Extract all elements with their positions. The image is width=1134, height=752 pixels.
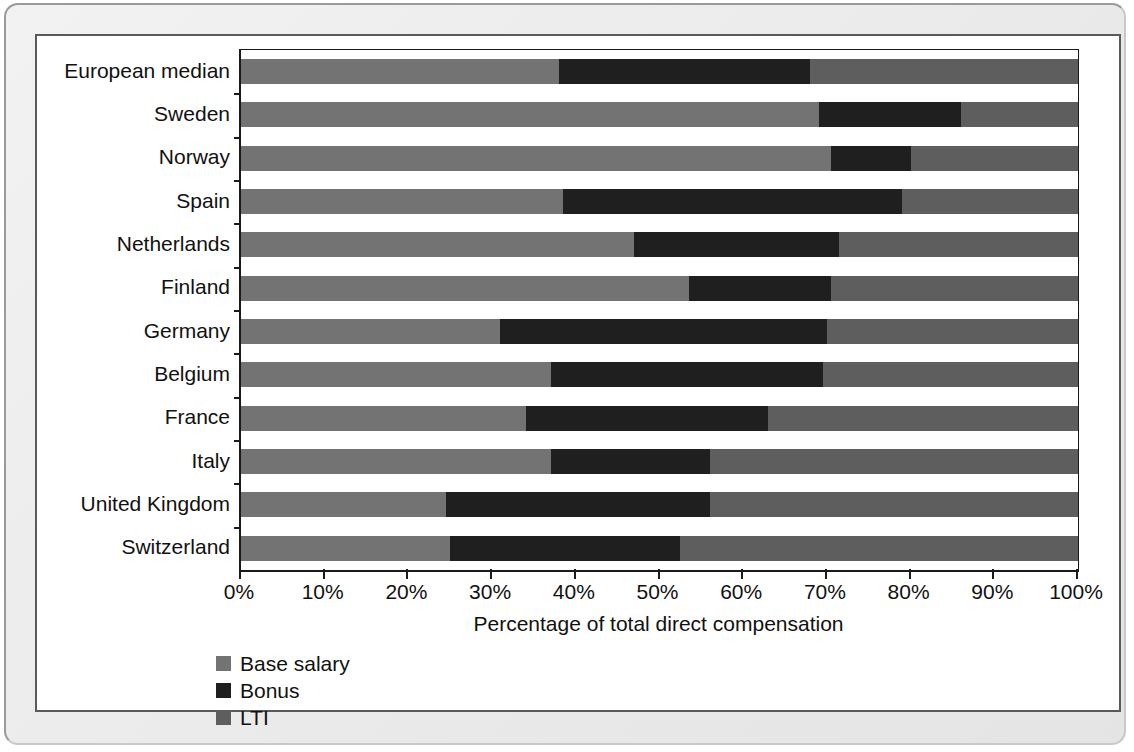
category-tick [234,267,241,269]
category-label: Germany [144,320,230,341]
bar-segment-base-salary [241,319,500,344]
bar-segment-lti [768,406,1078,431]
x-axis-tick-label: 60% [720,581,762,602]
category-tick [234,223,241,225]
bar-row [241,137,1078,180]
category-label: Belgium [154,363,230,384]
x-axis-tick-label: 30% [469,581,511,602]
bar-row [241,397,1078,440]
bar-segment-base-salary [241,536,450,561]
bar-segment-base-salary [241,232,634,257]
category-label: Switzerland [121,536,230,557]
bar-segment-base-salary [241,449,551,474]
stacked-bar [241,406,1078,431]
stacked-bar [241,492,1078,517]
category-tick [234,310,241,312]
bar-segment-bonus [559,59,810,84]
bar-row [241,483,1078,526]
x-axis-title: Percentage of total direct compensation [239,612,1078,636]
stacked-bar [241,232,1078,257]
category-tick [234,353,241,355]
legend-swatch-icon [216,710,231,725]
category-tick [234,483,241,485]
bar-row [241,440,1078,483]
bar-segment-lti [902,189,1078,214]
bar-segment-bonus [819,102,961,127]
x-axis-tick [1076,569,1078,579]
bar-row [241,527,1078,570]
bar-segment-lti [810,59,1078,84]
bar-row [241,180,1078,223]
category-tick [234,527,241,529]
legend-item: LTI [216,704,616,731]
bar-segment-base-salary [241,189,563,214]
bar-segment-bonus [634,232,839,257]
bar-segment-base-salary [241,276,689,301]
bar-segment-bonus [551,362,823,387]
x-axis-tick [909,569,911,579]
x-axis-tick [490,569,492,579]
bar-segment-lti [710,449,1078,474]
bar-segment-bonus [526,406,769,431]
x-axis-tick-label: 90% [971,581,1013,602]
bar-segment-bonus [689,276,831,301]
legend-item: Bonus [216,677,616,704]
category-label: United Kingdom [81,493,230,514]
category-label: Norway [159,146,230,167]
legend-item: Base salary [216,650,616,677]
legend-label: Base salary [240,653,350,674]
x-axis-tick-label: 80% [888,581,930,602]
bar-segment-bonus [450,536,680,561]
bar-segment-base-salary [241,102,819,127]
bar-segment-bonus [831,146,911,171]
chart-legend: Base salaryBonusLTI [216,650,616,731]
figure-outer-frame: European medianSwedenNorwaySpainNetherla… [4,3,1126,745]
stacked-bar [241,276,1078,301]
x-axis-tick [323,569,325,579]
category-label: Italy [191,450,230,471]
category-tick [234,180,241,182]
legend-swatch-icon [216,656,231,671]
bar-row [241,310,1078,353]
x-axis-tick-label: 0% [224,581,254,602]
x-axis-tick-label: 40% [553,581,595,602]
bar-segment-base-salary [241,406,526,431]
bar-segment-base-salary [241,492,446,517]
stacked-bar [241,189,1078,214]
bar-row [241,93,1078,136]
x-axis-tick-labels: 0%10%20%30%40%50%60%70%80%90%100% [239,581,1078,609]
stacked-bar [241,449,1078,474]
legend-swatch-icon [216,683,231,698]
x-axis-tick-label: 70% [804,581,846,602]
stacked-bar [241,362,1078,387]
category-tick [234,93,241,95]
category-tick [234,397,241,399]
stacked-bar [241,102,1078,127]
stacked-bar [241,59,1078,84]
x-axis-tick-label: 50% [636,581,678,602]
stacked-bar [241,319,1078,344]
bar-row [241,353,1078,396]
legend-label: Bonus [240,680,300,701]
category-label: Netherlands [117,233,230,254]
chart-panel: European medianSwedenNorwaySpainNetherla… [35,34,1121,712]
x-axis-tick [574,569,576,579]
bar-row [241,50,1078,93]
category-tick [234,440,241,442]
category-label: Sweden [154,103,230,124]
category-label: Spain [176,190,230,211]
bar-row [241,223,1078,266]
category-label: European median [64,60,230,81]
bar-segment-lti [911,146,1078,171]
x-axis-tick [992,569,994,579]
x-axis-tick [406,569,408,579]
bar-segment-base-salary [241,59,559,84]
stacked-bar [241,536,1078,561]
stacked-bar [241,146,1078,171]
bar-segment-lti [961,102,1078,127]
bar-segment-lti [823,362,1078,387]
x-axis-tick [239,569,241,579]
x-axis-tick [658,569,660,579]
bar-segment-lti [831,276,1078,301]
bar-segment-bonus [563,189,902,214]
